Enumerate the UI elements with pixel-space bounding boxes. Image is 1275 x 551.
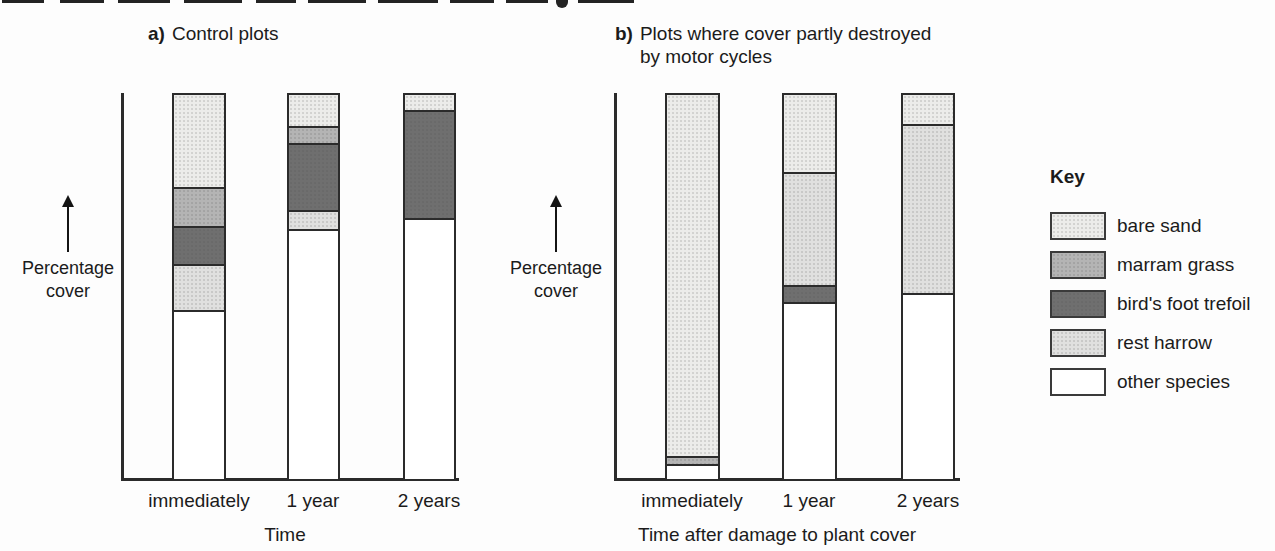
chart-b-x-tick-1-year: 1 year [783,490,836,512]
legend-item-other-species: other species [1050,368,1251,396]
legend-item-rest-harrow: rest harrow [1050,329,1251,357]
legend-label-rest-harrow: rest harrow [1117,332,1212,354]
segment-bare-sand [903,95,953,124]
segment-other-species [667,464,718,479]
segment-bare-sand [784,95,835,172]
legend: Key bare sandmarram grassbird's foot tre… [1050,166,1251,407]
legend-swatch-bird-s-foot-trefoil [1050,290,1106,318]
segment-bird-s-foot-trefoil [784,285,835,302]
legend-swatch-bare-sand [1050,212,1106,240]
segment-marram-grass [667,456,718,464]
legend-title: Key [1050,166,1251,188]
scanned-figure-page: a) Control plots Percentage cover immedi… [0,0,1275,551]
legend-label-other-species: other species [1117,371,1230,393]
legend-swatch-other-species [1050,368,1106,396]
chart-b-bar-1-year [782,93,837,481]
chart-b-bar-2-years [901,93,955,481]
legend-label-bird-s-foot-trefoil: bird's foot trefoil [1117,293,1251,315]
chart-b-x-axis-title: Time after damage to plant cover [638,524,916,546]
legend-item-bird-s-foot-trefoil: bird's foot trefoil [1050,290,1251,318]
legend-label-bare-sand: bare sand [1117,215,1202,237]
legend-swatch-marram-grass [1050,251,1106,279]
segment-other-species [784,302,835,479]
segment-other-species [903,293,953,479]
segment-bare-sand [667,95,718,456]
chart-b-x-tick-immediately: immediately [641,490,742,512]
legend-swatch-rest-harrow [1050,329,1106,357]
chart-b-bar-immediately [665,93,720,481]
legend-items: bare sandmarram grassbird's foot trefoil… [1050,212,1251,396]
segment-rest-harrow [903,124,953,293]
chart-b-x-tick-2-years: 2 years [897,490,959,512]
legend-item-marram-grass: marram grass [1050,251,1251,279]
segment-rest-harrow [784,172,835,285]
legend-label-marram-grass: marram grass [1117,254,1234,276]
legend-item-bare-sand: bare sand [1050,212,1251,240]
